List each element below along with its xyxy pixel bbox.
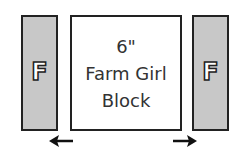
left-fabric-strip: F (21, 15, 58, 131)
right-fabric-strip: F (192, 15, 229, 131)
fabric-letter-f-right: F (194, 59, 227, 85)
block-name-line2: Block (102, 87, 151, 114)
right-arrow-icon (173, 134, 197, 148)
farm-girl-block: 6" Farm Girl Block (70, 15, 182, 131)
block-name-line1: Farm Girl (85, 60, 166, 87)
block-size-label: 6" (116, 33, 136, 60)
left-arrow-icon (49, 134, 73, 148)
fabric-letter-f-left: F (23, 59, 56, 85)
